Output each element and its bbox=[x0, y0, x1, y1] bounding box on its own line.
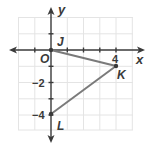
y-axis bbox=[48, 7, 55, 143]
point-l bbox=[49, 112, 53, 116]
point-j-label: J bbox=[57, 35, 64, 49]
point-l-label: L bbox=[57, 119, 64, 133]
point-j bbox=[49, 48, 53, 52]
y-axis-label: y bbox=[57, 2, 66, 17]
y-tick-label-neg4: −4 bbox=[32, 109, 45, 121]
coordinate-plane-svg: y x O J K L 4 −2 −4 bbox=[0, 0, 150, 148]
point-k-label: K bbox=[117, 68, 127, 82]
x-tick-label-4: 4 bbox=[112, 53, 119, 65]
x-axis bbox=[9, 47, 145, 54]
coordinate-plane-diagram: y x O J K L 4 −2 −4 bbox=[0, 0, 150, 148]
x-axis-label: x bbox=[135, 52, 144, 67]
y-tick-label-neg2: −2 bbox=[32, 77, 45, 89]
origin-label: O bbox=[40, 52, 50, 66]
